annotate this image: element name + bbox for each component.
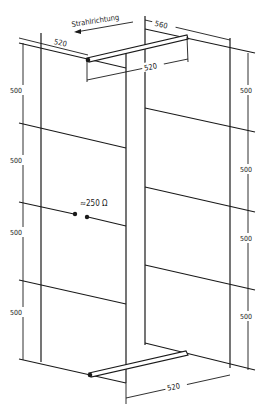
front-element-2 xyxy=(19,123,126,148)
dim-right-3: 500 xyxy=(240,235,252,243)
top-boom xyxy=(86,35,188,82)
top-boom-end xyxy=(86,58,91,63)
rear-element-4 xyxy=(145,265,255,290)
dim-left-3: 500 xyxy=(10,229,22,237)
beam-direction-indicator: Strahlrichtung xyxy=(71,13,133,34)
top-boom-tube xyxy=(87,35,188,62)
rear-element-3 xyxy=(145,187,255,212)
bottom-boom xyxy=(88,351,188,377)
bottom-boom-tube xyxy=(89,351,188,377)
beam-direction-label: Strahlrichtung xyxy=(71,13,120,29)
feed-point-right xyxy=(85,215,89,219)
rear-plane xyxy=(145,16,255,370)
rear-element-2 xyxy=(145,108,255,132)
dim-left-1: 500 xyxy=(10,87,22,95)
dim-right-2: 500 xyxy=(240,166,252,174)
top-boom-ext xyxy=(187,37,188,62)
front-element-3a xyxy=(19,202,74,214)
dimension-lines: 520 520 560 520 500 500 500 500 500 500 … xyxy=(10,16,256,404)
antenna-diagram: Strahlrichtung ≈250 Ω xyxy=(0,0,266,414)
dim-right-1: 500 xyxy=(240,87,252,95)
impedance-label: ≈250 Ω xyxy=(80,199,108,208)
feed-point-left xyxy=(73,212,77,216)
dim-top-mid-520-label: 520 xyxy=(143,61,157,72)
dim-left-4: 500 xyxy=(10,309,22,317)
dim-left-2: 500 xyxy=(10,157,22,165)
front-element-4 xyxy=(19,280,126,304)
dim-depth-560-label: 560 xyxy=(154,19,169,31)
dim-bottom-520-label: 520 xyxy=(166,381,180,392)
bottom-boom-end xyxy=(88,373,93,378)
front-element-3b xyxy=(88,217,126,226)
front-plane: ≈250 Ω xyxy=(19,33,126,383)
dim-right-4: 500 xyxy=(240,313,252,321)
arrow-head-icon xyxy=(74,29,81,34)
